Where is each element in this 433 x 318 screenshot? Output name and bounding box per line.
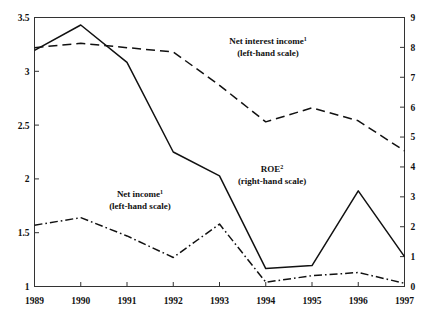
right-tick-label: 6 [411,103,416,113]
right-tick-label: 2 [411,222,416,232]
annotation-scale-note: (left-hand scale) [237,48,299,58]
left-tick-label: 3.5 [18,13,30,23]
x-axis-year-labels: 198919901991199219931994199519961997 [25,296,414,306]
chart-background [0,0,433,318]
left-tick-label: 2 [25,174,30,184]
year-label: 1994 [256,296,275,306]
right-tick-label: 7 [411,73,416,83]
left-tick-label: 3 [25,67,30,77]
right-tick-label: 8 [411,43,416,53]
year-label: 1991 [118,296,137,306]
year-label: 1992 [164,296,183,306]
right-tick-label: 5 [411,132,416,142]
year-label: 1993 [210,296,229,306]
left-tick-label: 1 [25,282,30,292]
annotation-title: ROE2 [261,164,284,174]
right-tick-label: 1 [411,252,416,262]
right-tick-label: 9 [411,13,416,23]
financial-line-chart: 11.522.533.5 0123456789 1989199019911992… [0,0,433,318]
right-tick-label: 0 [411,282,416,292]
annotation-scale-note: (right-hand scale) [238,176,306,186]
left-tick-label: 2.5 [18,121,30,131]
year-label: 1989 [25,296,44,306]
left-tick-label: 1.5 [18,228,30,238]
right-tick-label: 3 [411,192,416,202]
year-label: 1996 [349,296,368,306]
annotation-scale-note: (left-hand scale) [109,201,171,211]
year-label: 1990 [71,296,90,306]
year-label: 1997 [395,296,414,306]
year-label: 1995 [303,296,322,306]
annotation-title: Net interest income1 [229,36,306,46]
annotation-footnote-marker: 1 [304,36,307,42]
chart-container: 11.522.533.5 0123456789 1989199019911992… [0,0,433,318]
annotation-footnote-marker: 1 [160,189,163,195]
right-tick-label: 4 [411,162,416,172]
annotation-footnote-marker: 2 [280,164,283,170]
annotation-title: Net income1 [117,189,163,199]
